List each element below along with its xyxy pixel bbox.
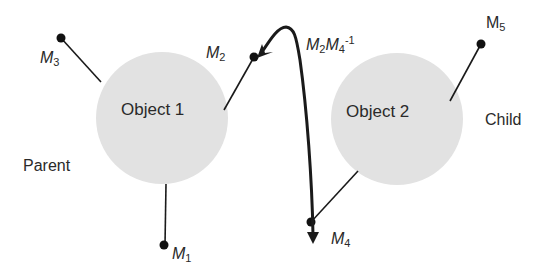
object-2-label: Object 2: [346, 102, 409, 122]
m1-label: M1: [172, 245, 191, 264]
object-1-label: Object 1: [121, 100, 184, 120]
m4-label: M4: [331, 230, 350, 249]
parent-label: Parent: [23, 157, 70, 175]
marker-m1: [160, 184, 169, 250]
m2-label: M2: [206, 44, 225, 63]
child-label: Child: [485, 111, 521, 129]
diagram-canvas: [0, 0, 546, 274]
arrowhead-down-icon: [307, 232, 319, 244]
m3-label: M3: [40, 49, 59, 68]
transform-arrow: [257, 27, 319, 244]
transform-label: M2M4-1: [306, 34, 355, 55]
marker-m4: [307, 171, 359, 227]
marker-m2: [224, 53, 259, 111]
marker-m5: [450, 40, 486, 102]
marker-m3: [57, 34, 102, 83]
m5-label: M5: [486, 14, 505, 33]
